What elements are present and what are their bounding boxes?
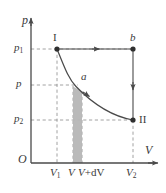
y-axis-label: p — [22, 14, 28, 26]
state-dot-II — [130, 117, 135, 122]
state-dot-I — [54, 46, 59, 51]
volume-guide-lines — [57, 49, 133, 163]
state-label-I: I — [53, 32, 57, 43]
x-tick-label-V1: V1 — [50, 167, 60, 179]
y-tick-label-p1: p1 — [14, 42, 23, 54]
differential-work-strip — [73, 87, 82, 164]
x-tick-label-V: V — [68, 167, 75, 178]
state-label-a: a — [81, 71, 87, 82]
state-label-II: II — [139, 114, 146, 125]
pv-diagram-figure: p V O p1 p p2 V1 V V+dV V2 I b a II — [0, 0, 166, 193]
state-dot-b — [130, 46, 135, 51]
origin-label: O — [18, 153, 27, 165]
x-axis-label: V — [145, 144, 152, 156]
y-tick-label-p: p — [16, 78, 22, 90]
state-point-dots — [54, 46, 135, 122]
x-tick-label-V-plus-dV: V+dV — [78, 167, 104, 178]
isothermal-curve-I-II — [57, 49, 133, 120]
x-tick-label-V2: V2 — [126, 167, 136, 179]
state-label-b: b — [130, 32, 136, 43]
y-tick-label-p2: p2 — [14, 113, 23, 125]
